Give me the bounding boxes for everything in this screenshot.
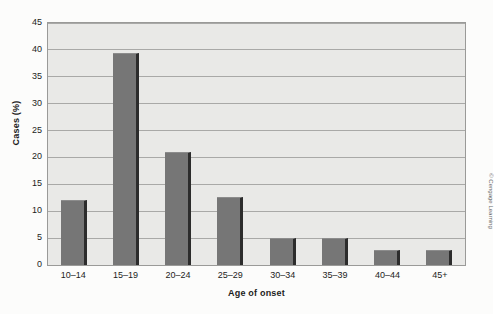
bar	[217, 197, 243, 265]
bar	[426, 250, 452, 265]
y-axis-tick-label: 0	[8, 259, 42, 269]
y-axis-tick-label: 5	[8, 232, 42, 242]
x-axis-tick-label: 30–34	[257, 270, 309, 280]
x-axis-tick-label: 20–24	[152, 270, 204, 280]
y-axis-tick-label: 15	[8, 178, 42, 188]
y-axis-tick-label: 40	[8, 44, 42, 54]
plot-area	[47, 22, 466, 266]
bar-slot	[257, 23, 309, 265]
bar-slot	[204, 23, 256, 265]
x-axis-tick-label: 15–19	[99, 270, 151, 280]
bar	[113, 53, 139, 265]
y-axis-tick-label: 10	[8, 205, 42, 215]
bar	[165, 152, 191, 265]
bar-slot	[48, 23, 100, 265]
copyright-credit: © Cengage Learning	[488, 153, 494, 249]
bar	[270, 238, 296, 265]
bar	[322, 238, 348, 265]
x-axis-tick-label: 10–14	[47, 270, 99, 280]
y-axis-tick-label: 45	[8, 17, 42, 27]
bar	[374, 250, 400, 265]
x-axis-tick-label: 25–29	[204, 270, 256, 280]
bar-slot	[100, 23, 152, 265]
bar-series	[48, 23, 465, 265]
x-axis-tick-label: 45+	[414, 270, 466, 280]
bar-slot	[361, 23, 413, 265]
bar-slot	[152, 23, 204, 265]
x-axis-tick-label: 35–39	[309, 270, 361, 280]
x-axis-tick-label: 40–44	[361, 270, 413, 280]
x-axis-title: Age of onset	[47, 288, 466, 298]
bar-slot	[413, 23, 465, 265]
bar	[61, 200, 87, 265]
y-axis-title: Cases (%)	[11, 73, 21, 173]
x-axis-tick-labels: 10–1415–1920–2425–2930–3435–3940–4445+	[47, 270, 466, 280]
bar-slot	[309, 23, 361, 265]
